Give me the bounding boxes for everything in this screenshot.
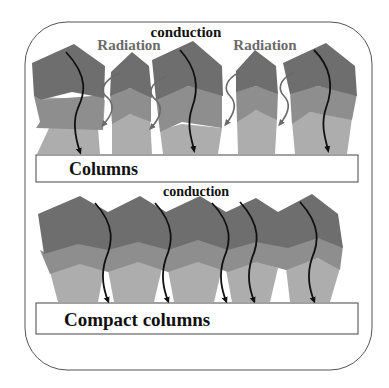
column-4 <box>236 50 278 154</box>
column-3 <box>152 41 223 154</box>
radiation-label-left: Radiation <box>97 37 161 53</box>
top-conduction-label: conduction <box>151 24 223 40</box>
bottom-panel: conduction Compact columns <box>36 184 358 334</box>
bottom-conduction-label: conduction <box>163 184 229 199</box>
columns-box-label: Columns <box>69 159 138 179</box>
radiation-label-right: Radiation <box>233 37 297 53</box>
column-2 <box>110 52 152 154</box>
compact-columns-box-label: Compact columns <box>64 309 210 330</box>
diagram-canvas: conduction Radiation Radiation Columns c… <box>0 0 389 388</box>
column-5 <box>283 43 357 154</box>
